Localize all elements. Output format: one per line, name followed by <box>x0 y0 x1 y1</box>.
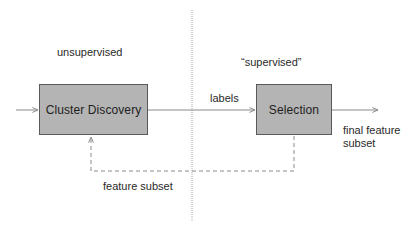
feature-subset-edge-label: feature subset <box>103 180 173 193</box>
unsupervised-region-label: unsupervised <box>57 46 122 59</box>
final-feature-subset-label-line2: subset <box>343 137 375 150</box>
labels-edge-label: labels <box>210 92 239 105</box>
selection-box: Selection <box>256 84 332 135</box>
selection-label: Selection <box>269 103 319 117</box>
final-feature-subset-label-line1: final feature <box>343 124 400 137</box>
diagram-canvas: unsupervised “supervised” Cluster Discov… <box>0 0 413 231</box>
feedback-dashed-arrow <box>91 136 294 171</box>
cluster-discovery-label: Cluster Discovery <box>46 103 142 117</box>
supervised-region-label: “supervised” <box>241 56 302 69</box>
cluster-discovery-box: Cluster Discovery <box>39 84 148 135</box>
